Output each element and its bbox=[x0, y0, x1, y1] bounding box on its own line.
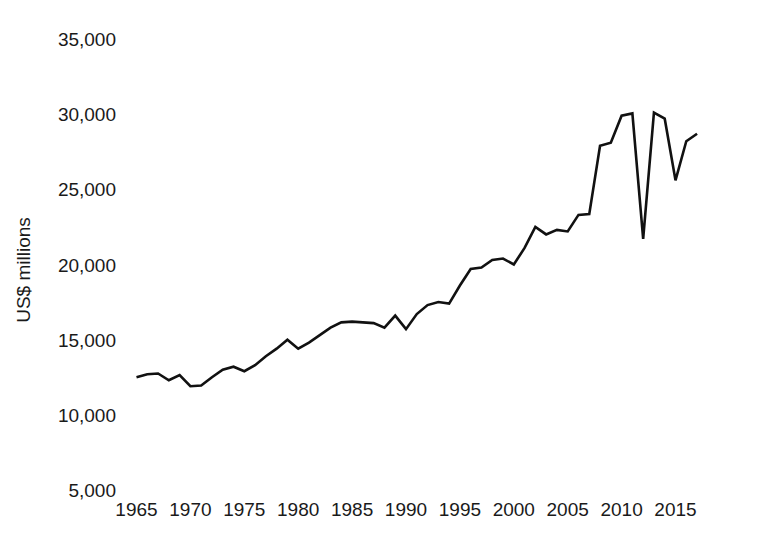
data-series-line bbox=[137, 113, 698, 387]
x-tick-label: 1985 bbox=[331, 499, 373, 520]
y-tick-label: 20,000 bbox=[58, 255, 116, 276]
y-tick-label: 10,000 bbox=[58, 405, 116, 426]
x-tick-label: 2010 bbox=[600, 499, 642, 520]
y-tick-label: 35,000 bbox=[58, 29, 116, 50]
y-tick-label: 30,000 bbox=[58, 104, 116, 125]
x-tick-label: 1970 bbox=[169, 499, 211, 520]
x-tick-label: 2015 bbox=[654, 499, 696, 520]
y-tick-label: 5,000 bbox=[68, 480, 116, 501]
x-tick-label: 1990 bbox=[385, 499, 427, 520]
x-tick-label: 1995 bbox=[439, 499, 481, 520]
x-axis-tick-labels: 1965197019751980198519901995200020052010… bbox=[115, 499, 696, 520]
y-axis-title: US$ millions bbox=[13, 217, 34, 323]
x-tick-label: 1965 bbox=[115, 499, 157, 520]
x-tick-label: 2005 bbox=[547, 499, 589, 520]
x-tick-label: 2000 bbox=[493, 499, 535, 520]
y-tick-label: 15,000 bbox=[58, 330, 116, 351]
y-tick-label: 25,000 bbox=[58, 179, 116, 200]
chart-canvas: 5,00010,00015,00020,00025,00030,00035,00… bbox=[0, 0, 767, 534]
series-polyline bbox=[137, 113, 698, 387]
x-tick-label: 1975 bbox=[223, 499, 265, 520]
line-chart: 5,00010,00015,00020,00025,00030,00035,00… bbox=[0, 0, 767, 534]
x-tick-label: 1980 bbox=[277, 499, 319, 520]
y-axis-tick-labels: 5,00010,00015,00020,00025,00030,00035,00… bbox=[58, 29, 116, 501]
